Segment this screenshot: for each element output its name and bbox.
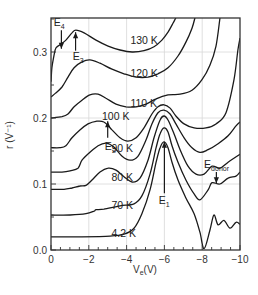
series-label: 110 K <box>130 97 157 109</box>
y-tick-label: 0.0 <box>33 245 47 256</box>
series-label: 120 K <box>130 67 157 79</box>
x-tick-label: −4 <box>121 254 133 265</box>
y-axis-title: r (V⁻¹) <box>4 121 15 149</box>
x-tick-label: −6 <box>159 254 171 265</box>
series-line-90K <box>51 110 240 172</box>
series-label: 4.2 K <box>111 227 136 239</box>
x-tick-label: −8 <box>196 254 208 265</box>
series-label: 100 K <box>102 110 129 122</box>
series-line-80K <box>51 116 240 189</box>
x-axis-title: Ve(V) <box>133 264 157 276</box>
x-tick-label: 0 <box>48 254 54 265</box>
x-tick-label: −2 <box>83 254 95 265</box>
y-tick-label: 0.2 <box>33 113 47 124</box>
y-tick-label: 0.3 <box>33 47 47 58</box>
series-label: 130 K <box>130 34 157 46</box>
annotation-Edonor: Edonor <box>204 158 230 172</box>
tick-labels: 0−2−4−6−8−100.00.10.20.3 <box>33 47 249 265</box>
arrowhead-icon <box>73 32 78 38</box>
y-tick-label: 0.1 <box>33 179 47 190</box>
x-tick-label: −10 <box>232 254 249 265</box>
annotation-E1: E1 <box>159 194 170 208</box>
series-label: 80 K <box>111 171 133 183</box>
series-line-4_2K <box>51 142 240 249</box>
chart: 130 K120 K110 K100 K90 K80 K70 K4.2 K E4… <box>0 0 258 295</box>
series-label: 70 K <box>111 199 133 211</box>
